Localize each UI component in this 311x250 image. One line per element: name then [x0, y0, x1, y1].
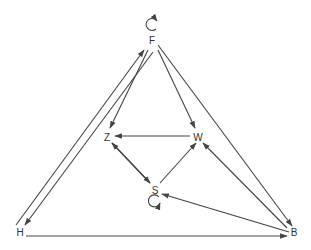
node-W: W	[193, 132, 203, 143]
edge-B-to-S	[162, 194, 289, 232]
edge-F-to-W	[158, 50, 195, 128]
edge-F-to-H	[25, 52, 153, 225]
node-F: F	[149, 35, 155, 46]
self-loop-F	[146, 18, 157, 30]
node-Z: Z	[104, 132, 110, 143]
edge-S-to-W	[160, 143, 196, 183]
edge-B-to-W	[203, 143, 287, 228]
edge-H-to-F	[16, 50, 144, 225]
self-loop-S	[148, 195, 160, 207]
node-B: B	[291, 227, 298, 238]
node-S: S	[152, 185, 159, 196]
directed-graph: F Z W S H B	[0, 0, 311, 250]
node-H: H	[16, 227, 23, 238]
edge-S-to-Z	[112, 143, 150, 183]
